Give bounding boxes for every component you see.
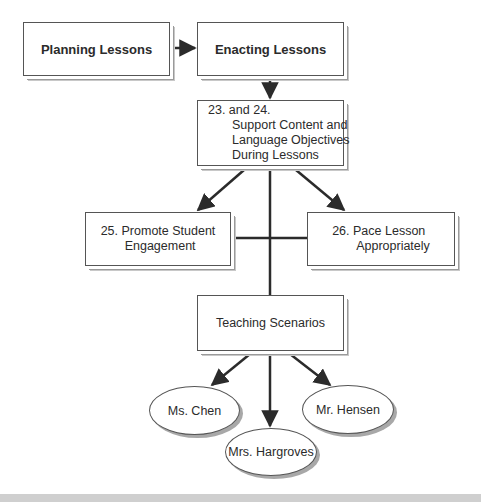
- node-label-line: 23. and 24.: [208, 103, 349, 118]
- node-planning-lessons: Planning Lessons: [23, 22, 170, 76]
- page-footer-band: [0, 494, 481, 502]
- node-promote-engagement: 25. Promote Student Engagement: [85, 212, 231, 266]
- node-label: Mr. Hensen: [316, 403, 380, 417]
- node-label: Mrs. Hargroves: [228, 445, 313, 459]
- node-pace-lesson: 26. Pace Lesson Appropriately: [307, 212, 455, 266]
- node-label-line: 25. Promote Student: [101, 224, 216, 239]
- node-ms-chen: Ms. Chen: [149, 386, 240, 435]
- node-label: Ms. Chen: [168, 404, 222, 418]
- node-mr-hensen: Mr. Hensen: [302, 385, 394, 434]
- node-label: Teaching Scenarios: [216, 316, 325, 331]
- node-label-line: Engagement: [101, 239, 216, 254]
- node-teaching-scenarios: Teaching Scenarios: [197, 295, 344, 351]
- node-label-line: 26. Pace Lesson: [332, 224, 430, 239]
- node-label: Enacting Lessons: [215, 42, 326, 57]
- node-label-line: Appropriately: [332, 239, 430, 254]
- node-label-line: Language Objectives: [208, 133, 349, 148]
- node-label-line: Support Content and: [208, 118, 349, 133]
- node-label: Planning Lessons: [41, 42, 152, 57]
- node-enacting-lessons: Enacting Lessons: [197, 22, 344, 76]
- node-support-objectives: 23. and 24. Support Content and Language…: [197, 100, 344, 166]
- node-mrs-hargroves: Mrs. Hargroves: [225, 428, 317, 476]
- node-label-line: During Lessons: [208, 148, 349, 163]
